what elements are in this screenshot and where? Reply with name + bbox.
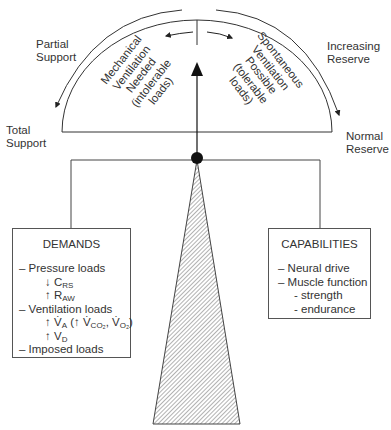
capabilities-box: CAPABILITIES – Neural drive – Muscle fun… <box>268 228 371 319</box>
capabilities-title: CAPABILITIES <box>269 238 370 250</box>
demands-title: DEMANDS <box>13 238 130 250</box>
capability-item: - endurance <box>278 303 370 317</box>
demand-item: – Ventilation loads <box>19 303 130 317</box>
demand-item: – Pressure loads <box>19 262 130 276</box>
demand-item: ↓ CRS <box>19 276 130 290</box>
fulcrum-triangle <box>153 160 240 424</box>
pivot-dot <box>191 152 203 164</box>
left-small-arrow-icon <box>166 32 193 36</box>
capability-item: - strength <box>278 289 370 303</box>
capability-item: – Neural drive <box>278 262 370 276</box>
label-increasing-reserve: IncreasingReserve <box>327 40 380 66</box>
demand-item: – Imposed loads <box>19 343 130 357</box>
label-total-support: TotalSupport <box>6 124 46 150</box>
label-normal-reserve: NormalReserve <box>346 130 389 156</box>
demand-item: ↑ V̇A (↑ V̇CO₂, V̇O₂) <box>19 316 130 330</box>
demand-item: ↑ RAW <box>19 289 130 303</box>
demands-box: DEMANDS – Pressure loads ↓ CRS ↑ RAW – V… <box>12 228 131 358</box>
label-partial-support: PartialSupport <box>36 38 76 64</box>
pointer-arrowhead-icon <box>191 62 203 76</box>
demand-item: ↑ VD <box>19 330 130 344</box>
right-small-arrow-icon <box>207 32 232 38</box>
capability-item: – Muscle function <box>278 276 370 290</box>
